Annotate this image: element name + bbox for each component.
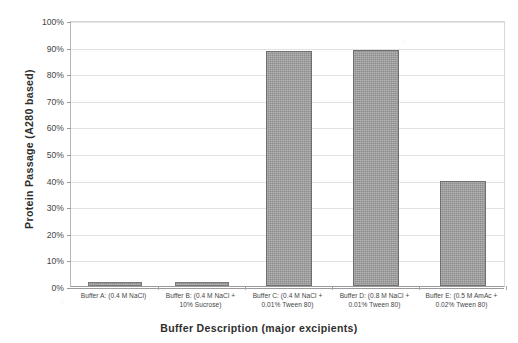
y-tick-label: 80% bbox=[47, 70, 64, 80]
category-label-line2: 0.02% Tween 80) bbox=[418, 301, 505, 310]
x-tick-mark bbox=[245, 286, 246, 290]
y-tick-label: 40% bbox=[47, 177, 64, 187]
category-label-1: Buffer A: (0.4 M NaCl) bbox=[70, 292, 157, 301]
x-tick-mark bbox=[332, 286, 333, 290]
bar-3 bbox=[266, 51, 312, 286]
category-label-line2: 0.01% Tween 80) bbox=[244, 301, 331, 310]
bars-layer bbox=[71, 22, 504, 286]
y-tick-label: 30% bbox=[47, 203, 64, 213]
bar-slot bbox=[245, 22, 332, 286]
y-tick-label: 0% bbox=[52, 283, 64, 293]
bar-5 bbox=[440, 181, 486, 286]
x-axis-category-labels: Buffer A: (0.4 M NaCl)Buffer B: (0.4 M N… bbox=[70, 292, 505, 318]
category-label-line1: Buffer C: (0.4 M NaCl + bbox=[253, 292, 323, 299]
y-tick-mark bbox=[67, 288, 71, 289]
y-tick-label: 60% bbox=[47, 123, 64, 133]
x-tick-mark bbox=[158, 286, 159, 290]
bar-slot bbox=[71, 22, 158, 286]
y-tick-label: 90% bbox=[47, 44, 64, 54]
bar-slot bbox=[419, 22, 506, 286]
bar-1 bbox=[88, 282, 142, 286]
category-label-line1: Buffer D: (0.8 M NaCl + bbox=[340, 292, 410, 299]
bar-slot bbox=[158, 22, 245, 286]
y-tick-label: 70% bbox=[47, 97, 64, 107]
category-label-line1: Buffer B: (0.4 M NaCl + bbox=[166, 292, 235, 299]
y-tick-label: 10% bbox=[47, 256, 64, 266]
bar-slot bbox=[332, 22, 419, 286]
x-tick-mark bbox=[419, 286, 420, 290]
category-label-line1: Buffer E: (0.5 M AmAc + bbox=[426, 292, 498, 299]
plot-area: 100%90%80%70%60%50%40%30%20%10%0% bbox=[70, 21, 505, 287]
x-axis-title: Buffer Description (major excipients) bbox=[0, 322, 518, 334]
bar-chart: Protein Passage (A280 based) 100%90%80%7… bbox=[0, 0, 518, 343]
y-tick-label: 20% bbox=[47, 230, 64, 240]
y-tick-label: 50% bbox=[47, 150, 64, 160]
category-label-line1: Buffer A: (0.4 M NaCl) bbox=[81, 292, 146, 299]
category-label-4: Buffer D: (0.8 M NaCl +0.01% Tween 80) bbox=[331, 292, 418, 309]
x-tick-mark bbox=[506, 286, 507, 290]
category-label-3: Buffer C: (0.4 M NaCl +0.01% Tween 80) bbox=[244, 292, 331, 309]
bar-4 bbox=[353, 50, 399, 286]
category-label-5: Buffer E: (0.5 M AmAc +0.02% Tween 80) bbox=[418, 292, 505, 309]
bar-2 bbox=[175, 282, 229, 286]
category-label-line2: 10% Sucrose) bbox=[157, 301, 244, 310]
category-label-line2: 0.01% Tween 80) bbox=[331, 301, 418, 310]
y-tick-label: 100% bbox=[42, 17, 64, 27]
category-label-2: Buffer B: (0.4 M NaCl +10% Sucrose) bbox=[157, 292, 244, 309]
y-axis-title: Protein Passage (A280 based) bbox=[23, 24, 35, 274]
gridline-0 bbox=[71, 288, 504, 289]
